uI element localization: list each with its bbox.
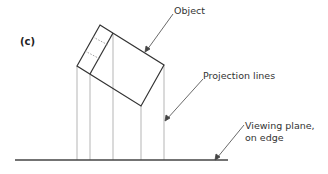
object-label: Object: [174, 5, 205, 16]
arrowhead-icon: [165, 115, 170, 121]
viewing-plane-label-1: Viewing plane,: [245, 120, 315, 131]
hidden-line: [85, 51, 100, 59]
leaders: [145, 14, 244, 160]
projection-lines-label: Projection lines: [203, 70, 275, 81]
plane-leader: [217, 125, 244, 158]
projection-lines: [77, 33, 164, 160]
viewing-plane-label-2: on edge: [245, 132, 284, 143]
hidden-line: [93, 37, 108, 45]
projection-leader: [167, 79, 203, 119]
object-edge: [90, 33, 113, 74]
projection-diagram: [0, 0, 328, 174]
object-leader: [147, 14, 173, 50]
